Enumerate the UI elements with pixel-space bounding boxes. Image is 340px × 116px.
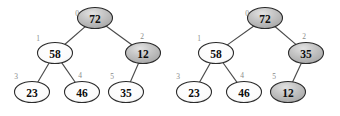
node-index-label: 0 [75,9,79,18]
node-index-label: 2 [302,32,306,41]
node-value-label: 58 [49,48,61,60]
node-index-label: 1 [197,34,201,43]
tree-edge [106,26,132,45]
node-value-label: 12 [137,48,149,60]
node-value-label: 12 [282,87,294,99]
tree-node[interactable]: 720 [75,8,112,29]
tree-edge [61,62,75,82]
node-index-label: 4 [240,71,244,80]
binary-heap-swap-diagram: 720581122233464355720581352233464125 [0,0,340,116]
node-value-label: 23 [188,87,200,99]
diagram-canvas: 720581122233464355720581352233464125 [0,0,340,116]
node-value-label: 35 [300,48,312,60]
nodes-layer: 720581122233464355720581352233464125 [14,8,323,103]
tree-node[interactable]: 233 [14,72,49,103]
node-index-label: 4 [78,71,82,80]
tree-edge [130,63,138,82]
node-value-label: 46 [238,87,250,99]
tree-edge [200,63,211,83]
node-index-label: 3 [14,72,18,81]
node-value-label: 72 [259,13,271,25]
tree-node[interactable]: 355 [109,72,144,103]
tree-edge [293,63,302,82]
tree-edge [227,26,254,45]
tree-edge [38,63,50,83]
tree-edge [223,62,238,82]
tree-node[interactable]: 581 [197,34,233,64]
node-index-label: 2 [140,32,144,41]
tree-node[interactable]: 125 [271,72,306,103]
node-value-label: 58 [210,48,222,60]
node-value-label: 46 [76,87,88,99]
node-index-label: 0 [245,9,249,18]
tree-node[interactable]: 720 [245,8,282,29]
node-index-label: 3 [176,72,180,81]
tree-edge [65,26,86,44]
tree-node[interactable]: 581 [36,34,72,64]
tree-node[interactable]: 352 [289,32,324,64]
node-index-label: 5 [110,72,114,81]
node-value-label: 35 [120,87,132,99]
node-index-label: 5 [272,72,276,81]
tree-edge [275,26,296,44]
node-index-label: 1 [36,34,40,43]
tree-node[interactable]: 233 [176,72,211,103]
tree-node[interactable]: 122 [126,32,161,64]
node-value-label: 23 [26,87,38,99]
node-value-label: 72 [89,13,101,25]
